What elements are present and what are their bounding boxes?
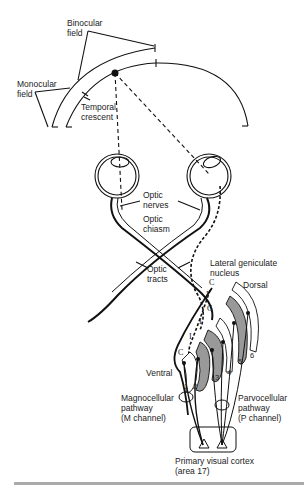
- right-eye: [187, 154, 231, 198]
- cortex-box: [190, 427, 236, 452]
- layer-2-number: 2: [193, 382, 197, 391]
- optic-tracts-label: Optic tracts: [147, 264, 168, 284]
- svg-text:I: I: [199, 317, 202, 326]
- svg-text:C: C: [207, 304, 212, 313]
- layer-6-number: 6: [250, 351, 254, 360]
- ventral-label: Ventral: [146, 368, 172, 378]
- magnocellular-pathway-label: Magnocellular pathway (M channel): [121, 393, 174, 423]
- svg-text:I: I: [206, 290, 209, 299]
- svg-text:I: I: [189, 332, 192, 341]
- optic-chiasm-label: Optic chiasm: [143, 214, 170, 234]
- parvocellular-pathway-label: Parvocellular pathway (P channel): [238, 393, 287, 423]
- svg-text:C: C: [209, 278, 214, 287]
- layer-1-number: 1: [184, 382, 188, 391]
- dorsal-label: Dorsal: [243, 280, 268, 290]
- layer-3-number: 3: [215, 373, 219, 382]
- lgn-layer-2: [196, 342, 210, 391]
- bottom-rule: [14, 482, 304, 485]
- layer-5-number: 5: [238, 357, 242, 366]
- lgn-label: Lateral geniculate nucleus: [210, 258, 277, 278]
- optic-nerves-label: Optic nerves: [143, 190, 169, 210]
- layer-4-number: 4: [227, 368, 231, 377]
- svg-text:C: C: [178, 348, 183, 357]
- primary-visual-cortex-label: Primary visual cortex (area 17): [175, 456, 254, 476]
- binocular-field-label: Binocular field: [67, 18, 102, 38]
- fixation-point: [112, 70, 119, 77]
- left-eye: [95, 154, 139, 198]
- monocular-field-label: Monocular field: [17, 79, 57, 99]
- temporal-crescent-label: Temporal crescent: [81, 102, 116, 122]
